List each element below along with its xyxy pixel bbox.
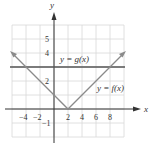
svg-text:6: 6: [94, 113, 98, 122]
y-axis-arrow-icon: [52, 12, 57, 20]
svg-text:−1: −1: [42, 119, 51, 128]
x-axis: [5, 107, 141, 112]
svg-text:−2: −2: [33, 113, 42, 122]
y-axis-label: y: [49, 0, 54, 10]
svg-text:4: 4: [80, 113, 84, 122]
svg-text:8: 8: [108, 113, 112, 122]
svg-text:2: 2: [66, 113, 70, 122]
graph-figure: x y y = g(x) y = f(x) −4 −2 2 4 6 8 5 4 …: [0, 0, 151, 151]
svg-text:5: 5: [45, 35, 49, 44]
x-axis-label: x: [143, 104, 148, 114]
svg-text:−4: −4: [19, 113, 28, 122]
f-label: y = f(x): [96, 83, 124, 93]
svg-text:2: 2: [45, 77, 49, 86]
svg-text:4: 4: [45, 49, 49, 58]
g-label: y = g(x): [59, 54, 89, 64]
x-tick-labels: −4 −2 2 4 6 8: [19, 113, 112, 122]
x-axis-arrow-icon: [133, 107, 141, 112]
y-tick-labels: 5 4 2 −1: [42, 35, 51, 128]
